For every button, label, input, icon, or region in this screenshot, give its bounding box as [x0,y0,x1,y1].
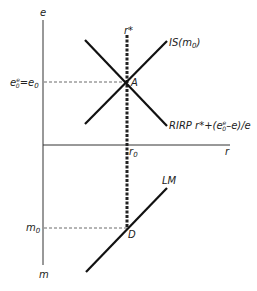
e0-label: ee0=e0 [10,76,39,90]
m0-label: m0 [26,222,41,235]
r0-label: r0 [129,146,138,159]
is-curve-label: IS(m0) [169,37,200,50]
is-lm-rirp-diagram: e m r r* r0 ee0=e0 m0 A D IS(m0) RIRP r*… [0,0,257,291]
lm-curve [86,188,167,272]
r-star-label: r* [124,25,133,36]
e-axis-label: e [40,7,46,18]
r-axis-label: r [225,146,230,157]
lm-curve-label: LM [162,175,177,186]
rirp-curve-label: RIRP r*+(ee0–e)/e [169,119,251,132]
m-axis-label: m [39,269,49,280]
point-a-label: A [130,77,138,88]
point-d-label: D [128,229,136,240]
